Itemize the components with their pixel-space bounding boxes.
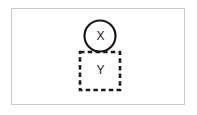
node-diagram bbox=[0, 0, 197, 115]
node-x-label: X bbox=[84, 30, 117, 42]
figure-canvas: X Y bbox=[0, 0, 197, 115]
node-y-label: Y bbox=[79, 64, 122, 76]
